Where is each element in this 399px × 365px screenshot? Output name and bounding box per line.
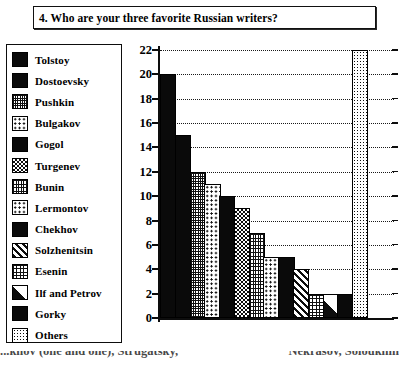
footer-text-left: ...khov (one and one), Strugatsky,: [0, 351, 178, 359]
legend-swatch-dot-grid-icon: [12, 328, 28, 343]
y-axis-tick-label: 16: [140, 116, 153, 131]
legend-item-label: Pushkin: [35, 96, 74, 108]
legend-item-label: Bunin: [35, 181, 64, 193]
legend-item-label: Others: [35, 329, 68, 341]
legend-item: Solzhenitsin: [12, 240, 121, 261]
legend-item: Dostoevsky: [12, 70, 121, 91]
legend-swatch-diagonal-stripes-icon: [12, 243, 28, 258]
legend-swatch-half-diagonal-icon: [12, 285, 28, 300]
legend-item: Others: [12, 324, 121, 345]
legend-swatch-solid-icon: [12, 137, 28, 152]
chart-legend: TolstoyDostoevskyPushkinBulgakovGogolTur…: [6, 44, 122, 343]
legend-item: Lermontov: [12, 197, 121, 218]
y-axis-tick-label: 18: [140, 91, 153, 106]
legend-item: Ilf and Petrov: [12, 282, 121, 303]
x-axis-line: [158, 318, 394, 320]
legend-item-label: Bulgakov: [35, 117, 80, 129]
legend-item-label: Dostoevsky: [35, 75, 89, 87]
legend-item: Tolstoy: [12, 49, 121, 70]
legend-item-label: Gogol: [35, 138, 64, 150]
legend-swatch-solid-icon: [12, 73, 28, 88]
legend-item-label: Gorky: [35, 308, 66, 320]
legend-swatch-checkerboard-icon: [12, 158, 28, 173]
legend-swatch-sparse-dots-icon: [12, 116, 28, 131]
legend-swatch-fine-grid-icon: [12, 94, 28, 109]
y-axis-tick-label: 14: [140, 140, 153, 155]
legend-swatch-vertical-grid-icon: [12, 179, 28, 194]
legend-item-label: Lermontov: [35, 202, 88, 214]
y-axis-tick-label: 10: [140, 189, 153, 204]
legend-item-label: Chekhov: [35, 223, 78, 235]
legend-item-label: Turgenev: [35, 160, 80, 172]
legend-item-label: Solzhenitsin: [35, 244, 93, 256]
y-axis-labels: 0246810121416182022: [128, 44, 152, 340]
legend-swatch-crosshatch-icon: [12, 264, 28, 279]
legend-item-label: Tolstoy: [35, 54, 70, 66]
bar-chart: 0246810121416182022: [128, 44, 393, 340]
legend-swatch-solid-icon: [12, 222, 28, 237]
legend-item: Bulgakov: [12, 113, 121, 134]
legend-swatch-solid-icon: [12, 52, 28, 67]
legend-item: Chekhov: [12, 219, 121, 240]
legend-item: Gogol: [12, 134, 121, 155]
cut-off-footer-text: ...khov (one and one), Strugatsky, Nekra…: [0, 351, 399, 365]
legend-item: Gorky: [12, 303, 121, 324]
legend-item-label: Esenin: [35, 265, 67, 277]
page-title: 4. Who are your three favorite Russian w…: [34, 12, 278, 24]
legend-item: Turgenev: [12, 155, 121, 176]
legend-item: Bunin: [12, 176, 121, 197]
legend-swatch-sparse-dots-icon: [12, 200, 28, 215]
legend-item: Esenin: [12, 261, 121, 282]
legend-item: Pushkin: [12, 91, 121, 112]
question-box: 4. Who are your three favorite Russian w…: [33, 6, 376, 29]
y-axis-tick-label: 12: [140, 164, 153, 179]
legend-swatch-solid-icon: [12, 306, 28, 321]
y-axis-tick-label: 22: [140, 43, 153, 58]
footer-text-right: Nekrasov, Soloukhin: [289, 351, 399, 359]
bar-others: [352, 50, 368, 318]
bar-series: [160, 50, 394, 318]
y-axis-tick-label: 20: [140, 67, 153, 82]
legend-item-label: Ilf and Petrov: [35, 287, 102, 299]
